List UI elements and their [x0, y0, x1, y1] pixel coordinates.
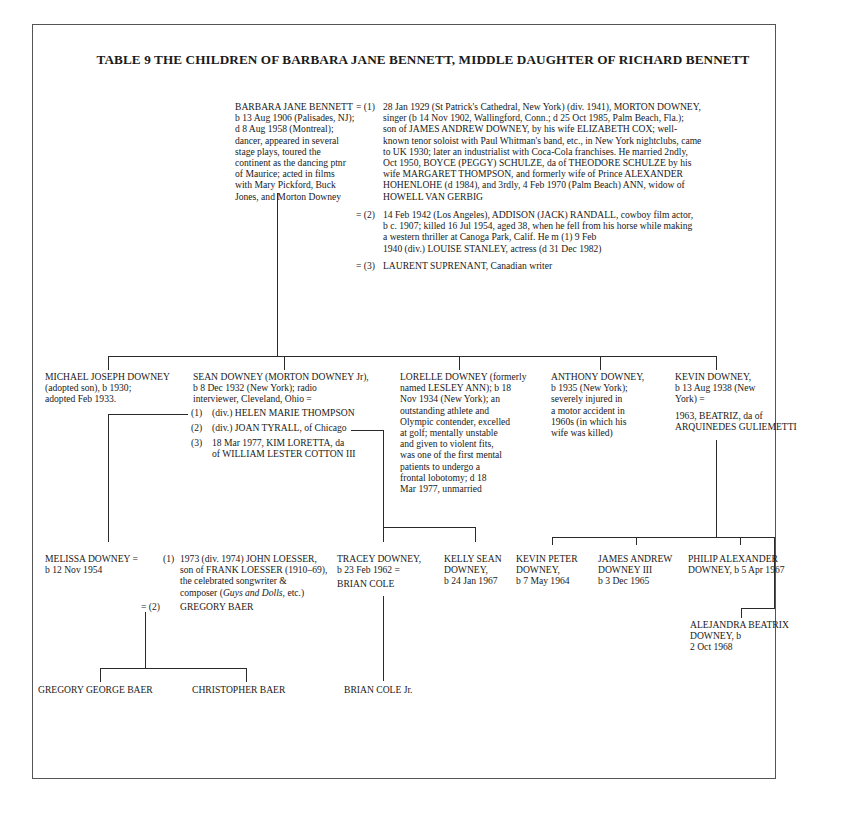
detail-line: 28 Jan 1929 (St Patrick's Cathedral, New… [383, 101, 783, 112]
detail-line: Olympic contender, excelled [400, 416, 540, 427]
detail-line: frontal lobotomy; d 18 [400, 472, 540, 483]
person-brian-cole-jr: BRIAN COLE Jr. [344, 684, 413, 695]
work-title: Guys and Dolls [223, 587, 283, 598]
connector-line [108, 414, 188, 415]
person-alejandra-beatrix-downey: ALEJANDRA BEATRIX DOWNEY, b 2 Oct 1968 [690, 619, 800, 653]
detail-line: at golf; mentally unstable [400, 427, 540, 438]
detail-line: son of FRANK LOESSER (1910–69), [180, 564, 345, 575]
detail-line: with Mary Pickford, Buck [235, 179, 365, 190]
detail-line: DOWNEY III [598, 564, 683, 575]
detail-line: was one of the first mental [400, 449, 540, 460]
detail-line: and given to violent fits, [400, 438, 540, 449]
detail-line: severely injured in [551, 393, 666, 404]
connector-line [716, 440, 717, 537]
detail-line: wife was killed) [551, 427, 666, 438]
detail-line: (adopted son), b 1930; [45, 382, 185, 393]
detail-line: ARQUINEDES GULIEMETTI [675, 421, 805, 432]
person-tracey-downey: TRACEY DOWNEY, b 23 Feb 1962 = BRIAN COL… [337, 553, 427, 590]
connector-line [383, 596, 384, 681]
detail-line: adopted Feb 1933. [45, 393, 185, 404]
marriage-2-details: 14 Feb 1942 (Los Angeles), ADDISON (JACK… [383, 209, 783, 254]
detail-line: Mar 1977, unmarried [400, 483, 540, 494]
marriage-marker: = (2) [356, 209, 375, 220]
detail-line: patients to undergo a [400, 461, 540, 472]
detail-line: b 24 Jan 1967 [444, 575, 524, 586]
detail-line: 1960s (in which his [551, 416, 666, 427]
detail-line: b 8 Dec 1932 (New York); radio [193, 382, 373, 393]
detail-line: 1940 (div.) LOUISE STANLEY, actress (d 3… [383, 243, 783, 254]
detail-line: b c. 1907; killed 16 Jul 1954, aged 38, … [383, 220, 783, 231]
table-title: TABLE 9 THE CHILDREN OF BARBARA JANE BEN… [40, 52, 806, 68]
detail-line: the celebrated songwriter & [180, 575, 345, 586]
detail-line: b 13 Aug 1938 (New [675, 382, 800, 393]
detail-line: DOWNEY, b 5 Apr 1967 [688, 564, 798, 575]
detail-line: DOWNEY, b [690, 630, 800, 641]
detail-line: composer (Guys and Dolls, etc.) [180, 587, 345, 598]
detail-line: b 12 Nov 1954 [45, 564, 195, 575]
detail-line: York) = [675, 393, 800, 404]
marriage-marker: (1) [191, 407, 202, 418]
connector-line [100, 668, 247, 669]
connector-line [636, 537, 637, 545]
marriage-marker: (3) [191, 437, 202, 448]
detail-line: known tenor soloist with Paul Whitman's … [383, 135, 783, 146]
connector-line [383, 430, 384, 542]
connector-line [145, 612, 146, 668]
person-name: SEAN DOWNEY (MORTON DOWNEY Jr), [193, 371, 373, 382]
marriage-3-details: LAURENT SUPRENANT, Canadian writer [383, 260, 783, 271]
connector-line [351, 430, 383, 431]
detail-line: b 7 May 1964 [516, 575, 596, 586]
person-name: KEVIN DOWNEY, [675, 371, 800, 382]
melissa-spouse-1: 1973 (div. 1974) JOHN LOESSER, son of FR… [180, 553, 345, 598]
detail-line: b 13 Aug 1906 (Palisades, NJ); [235, 112, 365, 123]
connector-line [277, 193, 278, 356]
detail-line: 1963, BEATRIZ, da of [675, 410, 805, 421]
person-name: JAMES ANDREW [598, 553, 683, 564]
detail-line: d 8 Aug 1958 (Montreal); [235, 123, 365, 134]
connector-line [108, 356, 109, 370]
connector-line [741, 608, 775, 609]
detail-line: HOWELL VAN GERBIG [383, 191, 783, 202]
person-barbara-jane-bennett: BARBARA JANE BENNETT b 13 Aug 1906 (Pali… [235, 101, 365, 202]
detail-line: DOWNEY, [516, 564, 596, 575]
connector-line [459, 356, 460, 370]
connector-line [100, 668, 101, 682]
person-kevin-downey: KEVIN DOWNEY, b 13 Aug 1938 (New York) = [675, 371, 800, 405]
person-name: KEVIN PETER [516, 553, 596, 564]
connector-line [740, 537, 741, 545]
connector-line [475, 527, 476, 542]
detail-line: continent as the dancing ptnr [235, 157, 365, 168]
connector-line [600, 356, 601, 370]
person-sean-downey: SEAN DOWNEY (MORTON DOWNEY Jr), b 8 Dec … [193, 371, 373, 405]
person-name: KELLY SEAN [444, 553, 524, 564]
person-kevin-peter-downey: KEVIN PETER DOWNEY, b 7 May 1964 [516, 553, 596, 587]
sean-spouse-3: 18 Mar 1977, KIM LORETTA, da of WILLIAM … [212, 437, 382, 459]
connector-line [108, 356, 716, 357]
detail-line: b 1935 (New York); [551, 382, 666, 393]
detail-line: to UK 1930; later an industrialist with … [383, 146, 783, 157]
person-kelly-sean-downey: KELLY SEAN DOWNEY, b 24 Jan 1967 [444, 553, 524, 587]
detail-line: 1973 (div. 1974) JOHN LOESSER, [180, 553, 345, 564]
detail-line: Oct 1950, BOYCE (PEGGY) SCHULZE, da of T… [383, 157, 783, 168]
marriage-1-details: 28 Jan 1929 (St Patrick's Cathedral, New… [383, 101, 783, 202]
marriage-marker: (2) [191, 422, 202, 433]
connector-line [246, 668, 247, 682]
melissa-spouse-2: GREGORY BAER [180, 601, 253, 612]
spouse-name: BRIAN COLE [337, 578, 427, 589]
person-name: BARBARA JANE BENNETT [235, 101, 365, 112]
detail-line: HOHENLOHE (d 1984), and 3rdly, 4 Feb 197… [383, 179, 783, 190]
detail-line: son of JAMES ANDREW DOWNEY, by his wife … [383, 123, 783, 134]
detail-line: interviewer, Cleveland, Ohio = [193, 393, 373, 404]
detail-line: Jones, and Morton Downey [235, 191, 365, 202]
marriage-marker: = (3) [356, 260, 375, 271]
detail-line: b 3 Dec 1965 [598, 575, 683, 586]
person-christopher-baer: CHRISTOPHER BAER [192, 684, 285, 695]
connector-line [716, 356, 717, 370]
person-gregory-george-baer: GREGORY GEORGE BAER [38, 684, 153, 695]
person-lorelle-downey: LORELLE DOWNEY (formerly named LESLEY AN… [400, 371, 540, 494]
person-name: TRACEY DOWNEY, [337, 553, 427, 564]
sean-spouse-2: (div.) JOAN TYRALL, of Chicago [212, 422, 347, 433]
detail-line: 2 Oct 1968 [690, 641, 800, 652]
person-name: MICHAEL JOSEPH DOWNEY [45, 371, 185, 382]
marriage-marker: (1) [163, 553, 174, 564]
